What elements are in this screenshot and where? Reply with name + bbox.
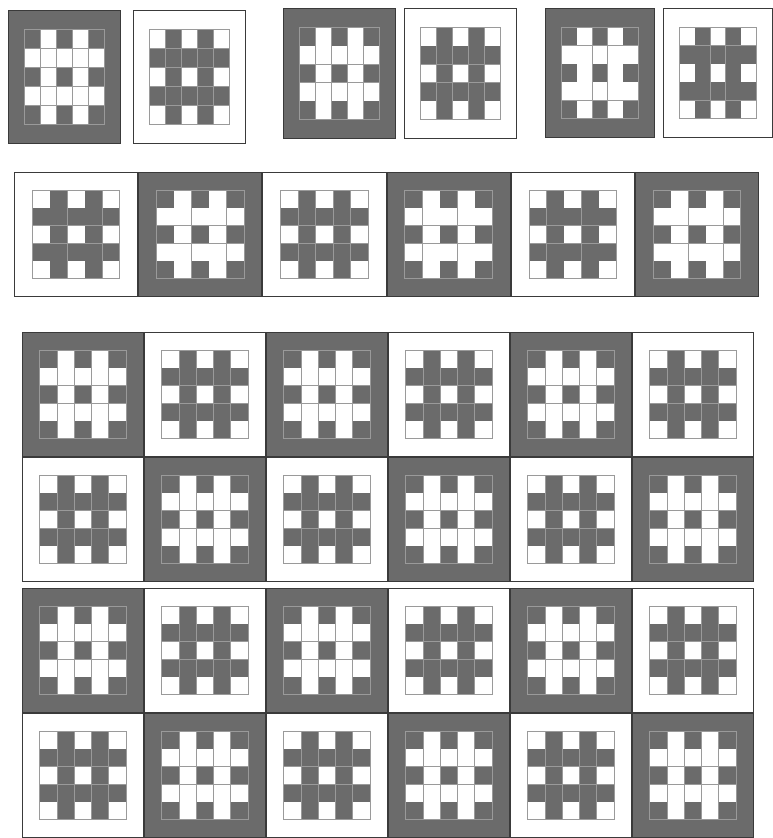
- block-patch: [109, 624, 126, 641]
- block-patch: [40, 529, 57, 546]
- block-patch: [302, 749, 319, 766]
- block-patch: [528, 476, 545, 493]
- quilt-block-light: [262, 172, 386, 297]
- block-patch: [593, 64, 608, 82]
- block-patch: [580, 404, 597, 421]
- block-patch: [162, 546, 179, 563]
- block-patch: [231, 386, 248, 403]
- block-patch: [437, 101, 452, 119]
- block-patch: [441, 642, 458, 659]
- block-patch: [41, 30, 56, 48]
- block-patch: [351, 208, 368, 225]
- block-patch: [424, 546, 441, 563]
- block-patch: [231, 802, 248, 819]
- block-patch: [668, 511, 685, 528]
- block-patch: [33, 208, 50, 225]
- block-patch: [528, 642, 545, 659]
- block-patch: [562, 46, 577, 64]
- block-patch: [180, 677, 197, 694]
- block-patch: [75, 493, 92, 510]
- block-inner-grid: [24, 29, 105, 125]
- block-patch: [421, 65, 436, 83]
- block-patch: [528, 351, 545, 368]
- block-patch: [702, 785, 719, 802]
- block-patch: [73, 87, 88, 105]
- block-patch: [316, 208, 333, 225]
- block-patch: [192, 261, 209, 278]
- block-inner-grid: [39, 731, 126, 820]
- block-patch: [353, 749, 370, 766]
- block-patch: [180, 421, 197, 438]
- block-patch: [192, 244, 209, 261]
- block-patch: [150, 106, 165, 124]
- block-patch: [302, 660, 319, 677]
- block-patch: [580, 476, 597, 493]
- block-patch: [334, 191, 351, 208]
- block-patch: [724, 244, 741, 261]
- block-patch: [711, 46, 726, 64]
- block-patch: [702, 607, 719, 624]
- block-patch: [580, 802, 597, 819]
- block-patch: [719, 732, 736, 749]
- block-patch: [157, 226, 174, 243]
- quilt-block-light: [632, 332, 754, 457]
- block-patch: [103, 244, 120, 261]
- block-patch: [580, 660, 597, 677]
- block-patch: [441, 529, 458, 546]
- block-patch: [437, 46, 452, 64]
- block-patch: [353, 493, 370, 510]
- block-patch: [40, 386, 57, 403]
- block-patch: [547, 226, 564, 243]
- block-patch: [336, 677, 353, 694]
- block-patch: [597, 493, 614, 510]
- block-patch: [597, 749, 614, 766]
- block-patch: [319, 476, 336, 493]
- block-patch: [319, 732, 336, 749]
- block-patch: [597, 642, 614, 659]
- block-patch: [685, 732, 702, 749]
- block-patch: [214, 49, 229, 67]
- block-patch: [284, 493, 301, 510]
- block-patch: [441, 476, 458, 493]
- block-patch: [680, 101, 695, 119]
- block-patch: [546, 368, 563, 385]
- block-patch: [668, 421, 685, 438]
- block-patch: [475, 244, 492, 261]
- block-patch: [316, 28, 331, 46]
- block-patch: [668, 404, 685, 421]
- block-patch: [563, 529, 580, 546]
- block-patch: [685, 749, 702, 766]
- block-patch: [332, 28, 347, 46]
- block-patch: [458, 476, 475, 493]
- block-patch: [685, 546, 702, 563]
- block-patch: [109, 368, 126, 385]
- block-patch: [227, 208, 244, 225]
- block-patch: [231, 624, 248, 641]
- block-patch: [563, 368, 580, 385]
- block-patch: [706, 244, 723, 261]
- block-patch: [302, 802, 319, 819]
- block-patch: [40, 642, 57, 659]
- block-inner-grid: [529, 190, 618, 279]
- block-patch: [563, 476, 580, 493]
- block-patch: [597, 546, 614, 563]
- block-patch: [597, 368, 614, 385]
- block-patch: [40, 511, 57, 528]
- block-patch: [546, 677, 563, 694]
- block-patch: [741, 82, 756, 100]
- block-patch: [685, 493, 702, 510]
- block-patch: [546, 802, 563, 819]
- block-patch: [348, 83, 363, 101]
- block-patch: [284, 607, 301, 624]
- block-patch: [231, 660, 248, 677]
- block-inner-grid: [283, 606, 370, 695]
- block-patch: [281, 244, 298, 261]
- block-patch: [650, 732, 667, 749]
- quilt-block-dark: [632, 457, 754, 582]
- block-patch: [650, 802, 667, 819]
- block-patch: [180, 785, 197, 802]
- block-patch: [580, 511, 597, 528]
- block-patch: [336, 785, 353, 802]
- block-patch: [197, 802, 214, 819]
- block-patch: [685, 660, 702, 677]
